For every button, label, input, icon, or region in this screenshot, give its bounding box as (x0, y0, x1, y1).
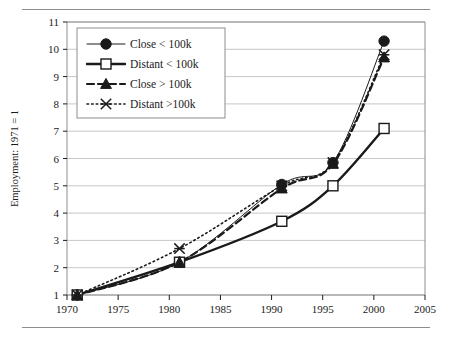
data-point-marker (328, 181, 338, 191)
line-chart: 1234567891011 19701975198019851990199520… (0, 0, 451, 342)
y-tick-label: 5 (54, 180, 60, 192)
y-axis-title-text: Employment: 1971 = 1 (9, 110, 20, 207)
legend-label: Close < 100k (130, 38, 192, 50)
y-tick-label: 3 (54, 234, 60, 246)
chart-legend: Close < 100kDistant < 100kClose > 100kDi… (77, 28, 225, 118)
y-tick-label: 4 (54, 207, 60, 219)
x-axis-ticks: 19701975198019851990199520002005 (56, 295, 437, 315)
legend-label: Close > 100k (130, 78, 192, 90)
y-tick-label: 2 (54, 262, 60, 274)
x-tick-label: 1985 (209, 303, 232, 315)
x-tick-label: 1990 (261, 303, 284, 315)
y-tick-label: 7 (54, 125, 60, 137)
data-point-marker (277, 216, 287, 226)
legend-label: Distant < 100k (130, 58, 199, 70)
data-point-marker (101, 39, 111, 49)
data-point-marker (379, 52, 390, 62)
data-point-marker (174, 243, 184, 253)
y-tick-label: 6 (54, 153, 60, 165)
x-tick-label: 2000 (363, 303, 386, 315)
data-point-marker (379, 36, 389, 46)
y-tick-label: 1 (54, 289, 60, 301)
x-tick-label: 2005 (414, 303, 437, 315)
y-tick-label: 10 (48, 43, 60, 55)
y-axis-title: Employment: 1971 = 1 (9, 110, 20, 207)
x-tick-label: 1980 (158, 303, 181, 315)
y-tick-label: 8 (54, 98, 60, 110)
data-point-marker (379, 123, 389, 133)
y-tick-label: 9 (54, 71, 60, 83)
y-tick-label: 11 (48, 16, 59, 28)
x-tick-label: 1970 (56, 303, 79, 315)
figure-container: 1234567891011 19701975198019851990199520… (0, 0, 451, 342)
y-axis-ticks: 1234567891011 (48, 16, 67, 301)
legend-label: Distant >100k (130, 98, 196, 110)
x-tick-label: 1995 (312, 303, 335, 315)
data-point-marker (101, 59, 111, 69)
x-tick-label: 1975 (107, 303, 130, 315)
